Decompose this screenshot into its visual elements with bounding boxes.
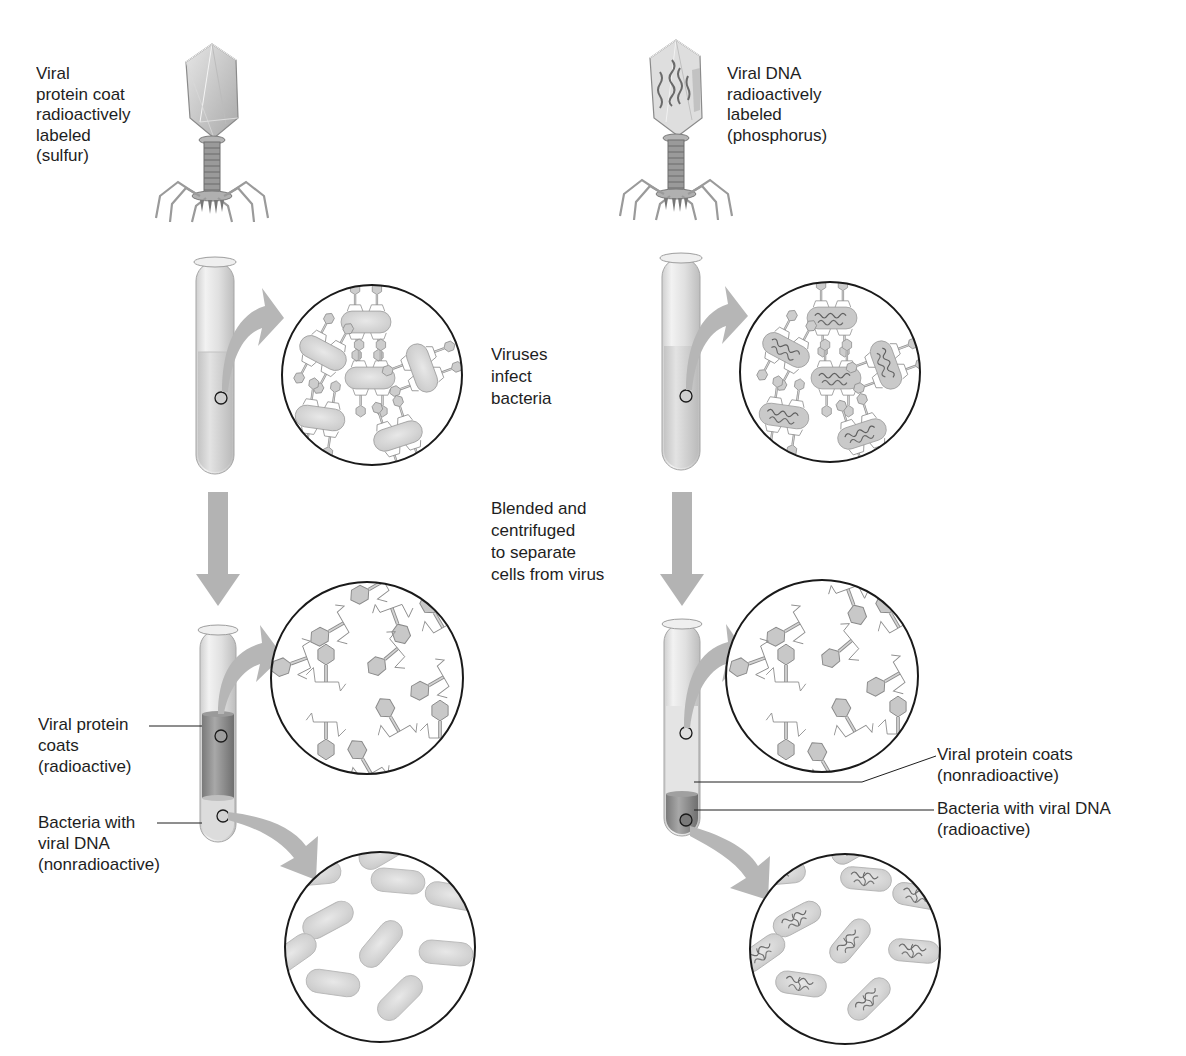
right-phage-label: Viral DNA radioactively labeled (phospho… [727, 64, 897, 146]
step-infect-label: Viruses infect bacteria [491, 344, 651, 410]
right-bacteriophage-icon [620, 40, 732, 220]
step-blend-centrifuge-label: Blended and centrifuged to separate cell… [491, 498, 661, 586]
sample-point-icon [680, 814, 692, 826]
right-pellet-label: Bacteria with viral DNA (radioactive) [937, 798, 1177, 840]
left-infection-circle [282, 283, 467, 481]
left-phage-label: Viral protein coat radioactively labeled… [36, 64, 186, 167]
sample-point-icon [680, 727, 692, 739]
left-supernatant-circle [265, 559, 465, 791]
curved-arrow-icon [228, 812, 318, 880]
curved-arrow-icon [690, 826, 770, 900]
sample-point-icon [215, 392, 227, 404]
right-pellet-circle [735, 824, 945, 1044]
left-pellet-label: Bacteria with viral DNA (nonradioactive) [38, 812, 198, 875]
right-infection-circle [740, 279, 931, 479]
right-down-arrow-icon [660, 492, 704, 606]
sample-point-icon [215, 730, 227, 742]
hershey-chase-diagram: Viral protein coat radioactively labeled… [0, 0, 1186, 1056]
left-supernatant-label: Viral protein coats (radioactive) [38, 714, 158, 777]
sample-point-icon [680, 390, 692, 402]
left-centrifuged-tube [198, 625, 238, 842]
left-down-arrow-icon [196, 492, 240, 606]
sample-point-icon [217, 810, 229, 822]
right-supernatant-label: Viral protein coats (nonradioactive) [937, 744, 1177, 786]
right-supernatant-circle [723, 574, 921, 793]
right-centrifuged-tube [662, 619, 702, 836]
